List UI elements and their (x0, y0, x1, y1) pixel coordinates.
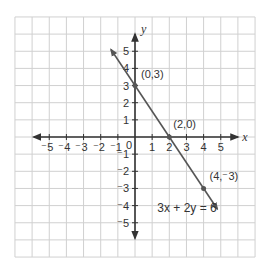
y-tick-label: 3 (123, 80, 129, 92)
x-tick-label: ⁻3 (75, 141, 87, 153)
x-tick-label: 1 (149, 141, 155, 153)
y-tick-label: ⁻3 (117, 182, 129, 194)
y-axis-label: y (140, 22, 147, 36)
y-tick-label: ⁻2 (117, 165, 129, 177)
x-tick-label: ⁻4 (58, 141, 70, 153)
origin-label: 0 (126, 139, 132, 151)
equation-label: 3x + 2y = 6 (157, 201, 217, 215)
data-point (201, 186, 206, 191)
x-tick-label: 3 (183, 141, 189, 153)
coordinate-plane-chart: ⁻5⁻4⁻3⁻2⁻11234554321⁻1⁻2⁻3⁻4⁻50xy(0,3)(2… (0, 0, 266, 278)
x-tick-label: 5 (218, 141, 224, 153)
data-point (133, 83, 138, 88)
point-label: (4,⁻3) (210, 170, 239, 182)
point-label: (2,0) (173, 118, 196, 130)
y-tick-label: ⁻4 (117, 200, 129, 212)
x-tick-label: 4 (201, 141, 207, 153)
y-tick-label: 5 (123, 45, 129, 57)
x-tick-label: 2 (166, 141, 172, 153)
point-label: (0,3) (141, 68, 164, 80)
y-tick-label: ⁻5 (117, 217, 129, 229)
y-tick-label: 1 (123, 114, 129, 126)
x-tick-label: ⁻5 (41, 141, 53, 153)
x-tick-label: ⁻2 (93, 141, 105, 153)
y-tick-label: 2 (123, 97, 129, 109)
x-axis-label: x (241, 130, 248, 144)
data-point (167, 135, 172, 140)
